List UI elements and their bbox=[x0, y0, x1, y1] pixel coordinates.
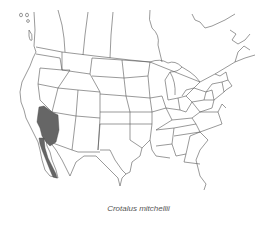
species-range-shading bbox=[37, 106, 59, 178]
species-caption: Crotalus mitchellii bbox=[0, 204, 277, 213]
range-map bbox=[0, 0, 277, 234]
border-canada-us bbox=[36, 47, 255, 82]
